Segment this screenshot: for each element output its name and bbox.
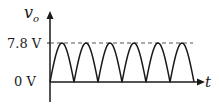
waveform-plot (0, 0, 219, 108)
rectified-waveform (50, 43, 194, 82)
x-axis-arrow-icon (197, 79, 205, 86)
y-axis-arrow-icon (47, 11, 54, 19)
